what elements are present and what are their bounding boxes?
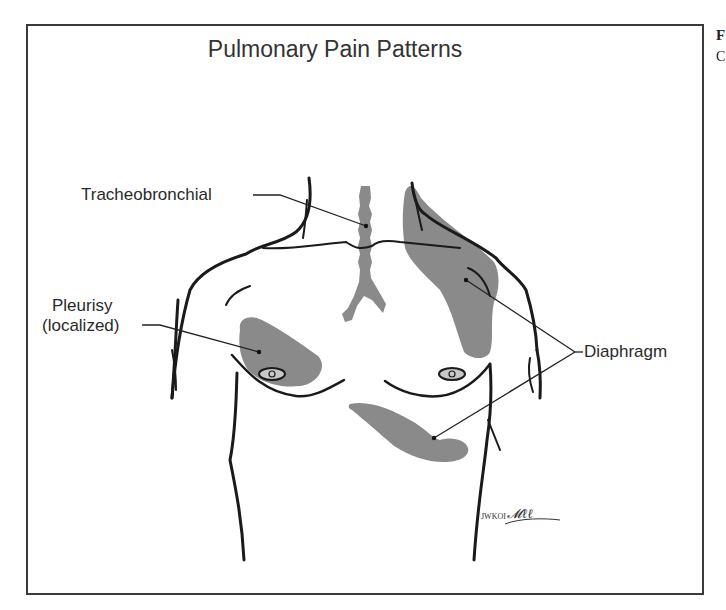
label-tracheobronchial: Tracheobronchial: [81, 185, 212, 205]
pain-areas: [239, 186, 498, 462]
diaphragm-lower-shading: [349, 403, 469, 462]
trachea-shading: [342, 186, 386, 322]
label-diaphragm: Diaphragm: [584, 342, 667, 362]
artist-signature: JWKOI: [481, 512, 506, 521]
body-outline: [172, 178, 540, 560]
label-pleurisy-localized: (localized): [42, 316, 119, 336]
diaphragm-leader-lower: [434, 352, 575, 438]
label-pleurisy: Pleurisy: [52, 296, 112, 316]
artist-signature-scrawl: 𝓜ℓℓ: [507, 506, 533, 522]
